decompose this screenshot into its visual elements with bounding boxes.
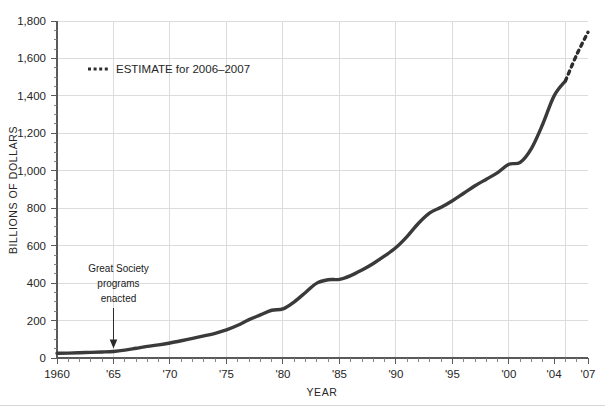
annotation-line-2: programs [97, 278, 139, 289]
x-axis-title: YEAR [307, 386, 338, 398]
y-tick-label-600: 600 [27, 240, 46, 252]
spending-line-chart: 02004006008001,0001,2001,4001,6001,800 1… [0, 0, 605, 407]
y-tick-label-400: 400 [27, 277, 46, 289]
y-tick-label-1600: 1,600 [17, 52, 46, 64]
y-axis-title: BILLIONS OF DOLLARS [7, 126, 19, 254]
x-axis-major-ticks [57, 358, 588, 364]
x-tick-label-2000: '00 [501, 368, 516, 380]
y-axis-tick-labels: 02004006008001,0001,2001,4001,6001,800 [17, 15, 46, 364]
y-tick-label-1800: 1,800 [17, 15, 46, 27]
annotation-line-1: Great Society [88, 263, 149, 274]
x-tick-label-1995: '95 [445, 368, 460, 380]
x-tick-label-2007: '07 [581, 368, 596, 380]
annotation-arrow-head [110, 339, 118, 348]
series-line-estimate [565, 32, 588, 81]
series-line-actual [57, 81, 565, 353]
y-tick-label-1400: 1,400 [17, 90, 46, 102]
chart-legend: ESTIMATE for 2006–2007 [88, 63, 250, 75]
annotation-line-3: enacted [101, 293, 137, 304]
great-society-annotation: Great Society programs enacted [88, 263, 149, 348]
y-tick-label-800: 800 [27, 202, 46, 214]
x-tick-label-1980: '80 [275, 368, 290, 380]
x-tick-label-2004: '04 [547, 368, 563, 380]
y-tick-label-1200: 1,200 [17, 127, 46, 139]
chart-figure: 02004006008001,0001,2001,4001,6001,800 1… [0, 0, 605, 407]
x-tick-label-1970: '70 [162, 368, 177, 380]
x-tick-label-1965: '65 [106, 368, 121, 380]
x-tick-label-1975: '75 [219, 368, 234, 380]
legend-label-estimate: ESTIMATE for 2006–2007 [116, 63, 250, 75]
y-tick-label-200: 200 [27, 315, 46, 327]
y-tick-label-1000: 1,000 [17, 165, 46, 177]
y-tick-label-0: 0 [40, 352, 46, 364]
x-axis-tick-labels: 1960'65'70'75'80'85'90'95'00'04'07 [44, 368, 595, 380]
x-tick-label-1990: '90 [388, 368, 403, 380]
x-tick-label-1985: '85 [332, 368, 347, 380]
x-tick-label-1960: 1960 [44, 368, 70, 380]
